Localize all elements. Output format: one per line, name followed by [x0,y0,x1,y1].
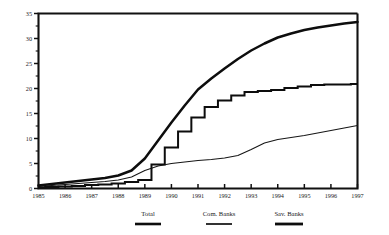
axis-frame [39,14,358,189]
legend-label: Com. Banks [203,210,236,217]
y-tick-label: 30 [26,35,32,42]
x-tick-label: 1994 [272,192,284,199]
x-tick-label: 1991 [192,192,204,199]
y-tick-label: 15 [26,110,32,117]
series-line-sav-banks [39,126,358,187]
x-tick-label: 1997 [351,192,363,199]
legend-label: Sav. Banks [274,210,304,217]
x-tick-label: 1993 [245,192,257,199]
x-tick-label: 1988 [112,192,124,199]
line-chart: 05101520253035 1985198619871988198919901… [0,0,389,235]
chart-legend: TotalCom. BanksSav. Banks [135,210,304,224]
legend-item-sav-banks: Sav. Banks [274,210,304,224]
legend-label: Total [141,210,155,217]
y-tick-label: 0 [29,185,32,192]
x-tick-label: 1987 [85,192,97,199]
y-tick-label: 35 [26,10,32,17]
x-tick-label: 1990 [165,192,177,199]
x-tick-label: 1986 [59,192,71,199]
y-tick-label: 5 [29,160,32,167]
x-tick-label: 1992 [218,192,230,199]
x-tick-label: 1995 [298,192,310,199]
legend-item-com-banks: Com. Banks [203,210,236,224]
x-tick-label: 1996 [325,192,337,199]
x-tick-label: 1989 [139,192,151,199]
y-tick-label: 20 [26,85,32,92]
series-line-com-banks [39,84,358,188]
x-tick-label: 1985 [32,192,44,199]
y-tick-label: 10 [26,135,32,142]
y-axis-ticks: 05101520253035 [26,10,39,192]
chart-container: 05101520253035 1985198619871988198919901… [0,0,389,235]
y-tick-label: 25 [26,60,32,67]
legend-item-total: Total [135,210,161,224]
